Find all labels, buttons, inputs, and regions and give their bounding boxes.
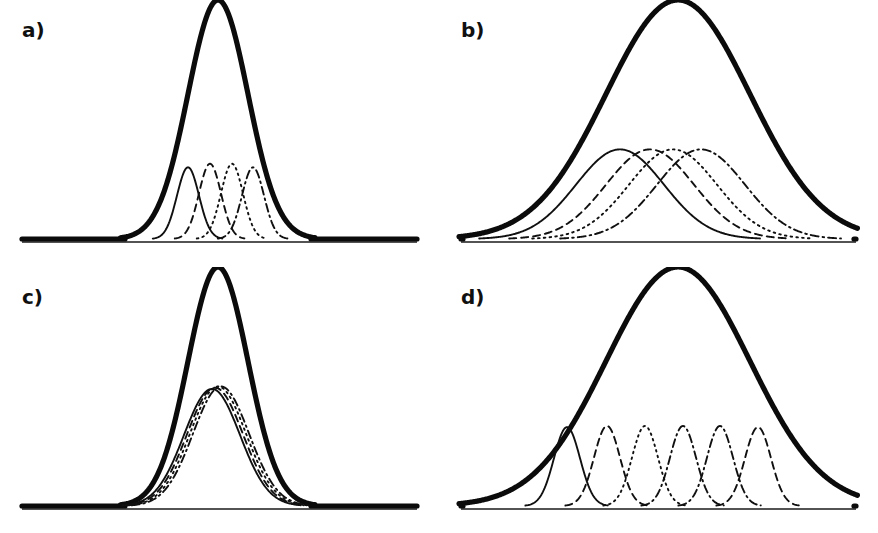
curve-component-2 xyxy=(509,149,790,238)
panel-d: d) xyxy=(439,267,878,533)
curve-component-3 xyxy=(128,387,306,506)
panel-a-plot xyxy=(0,0,439,266)
panel-b-plot xyxy=(439,0,878,266)
panel-d-plot xyxy=(439,267,878,533)
figure-canvas: a) b) c) d) xyxy=(0,0,878,533)
curve-component-4 xyxy=(641,426,723,506)
curve-component-2 xyxy=(565,426,647,506)
curve-component-3 xyxy=(603,426,685,506)
curve-component-1 xyxy=(525,427,607,505)
curve-component-1 xyxy=(479,149,760,238)
panel-a: a) xyxy=(0,0,439,266)
panel-c: c) xyxy=(0,267,439,533)
curve-envelope xyxy=(459,267,857,504)
panel-b-label: b) xyxy=(461,18,484,42)
panel-a-label: a) xyxy=(22,18,45,42)
panel-b: b) xyxy=(439,0,878,266)
curve-component-6 xyxy=(716,427,798,505)
panel-d-label: d) xyxy=(461,285,484,309)
panel-c-label: c) xyxy=(22,285,43,309)
panel-c-plot xyxy=(0,267,439,533)
curve-envelope xyxy=(121,0,315,238)
curve-envelope xyxy=(459,0,857,237)
